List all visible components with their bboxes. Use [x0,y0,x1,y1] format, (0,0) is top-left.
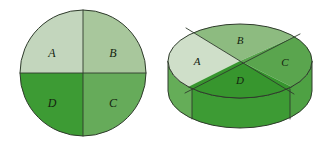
flat-sector-label-b: B [109,46,117,60]
flat-sector-a-fill [20,10,83,73]
figure-container: A B C D [0,0,323,154]
disc-sector-label-a: A [193,55,201,67]
flat-sector-label-d: D [47,96,57,110]
disc-3d-group: A B C D [160,16,322,135]
disc-sector-label-d: D [235,74,244,86]
flat-sector-b-fill [83,10,146,73]
geometry-figure: A B C D [0,0,323,154]
disc-sector-label-b: B [237,34,244,46]
flat-circle-group: A B C D [20,10,146,137]
flat-sector-label-c: C [109,96,118,110]
disc-sector-label-c: C [281,56,289,68]
flat-sector-label-a: A [47,46,56,60]
